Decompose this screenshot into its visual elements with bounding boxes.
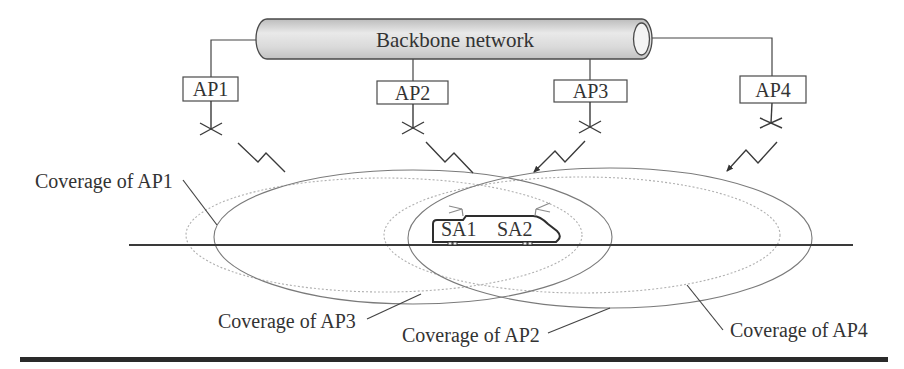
network-diagram: Backbone network AP1 AP2 AP3 AP4 bbox=[0, 0, 904, 369]
access-point-ap2: AP2 bbox=[377, 81, 473, 173]
train: SA1 SA2 bbox=[433, 203, 560, 245]
coverage-label-text: Coverage of AP2 bbox=[402, 324, 540, 347]
train-antenna-left-icon bbox=[449, 206, 463, 216]
backbone-label: Backbone network bbox=[376, 28, 535, 52]
access-point-ap1: AP1 bbox=[183, 77, 285, 172]
ap-label: AP1 bbox=[193, 78, 229, 100]
train-antenna-sa2-label: SA2 bbox=[497, 218, 533, 240]
wireless-signal-arrow-icon bbox=[534, 141, 585, 172]
ap-label: AP2 bbox=[395, 82, 431, 104]
wireless-signal-icon bbox=[238, 143, 285, 172]
backbone-tube-opening bbox=[634, 23, 650, 55]
leader-line bbox=[367, 294, 421, 319]
coverage-label-text: Coverage of AP4 bbox=[730, 319, 868, 342]
link-ap4 bbox=[651, 38, 772, 76]
access-point-ap4: AP4 bbox=[727, 76, 806, 171]
wireless-signal-icon bbox=[426, 142, 473, 173]
coverage-label-text: Coverage of AP1 bbox=[35, 170, 173, 193]
ap-label: AP4 bbox=[755, 79, 791, 101]
coverage-label-text: Coverage of AP3 bbox=[218, 310, 356, 333]
coverage-label-ap1: Coverage of AP1 bbox=[35, 170, 217, 225]
coverage-label-ap4: Coverage of AP4 bbox=[687, 285, 868, 342]
wireless-signal-arrow-icon bbox=[727, 142, 777, 171]
ap-label: AP3 bbox=[573, 80, 609, 102]
leader-line bbox=[548, 308, 610, 333]
link-ap1 bbox=[211, 40, 257, 77]
train-antenna-right-icon bbox=[535, 203, 550, 216]
leader-line bbox=[183, 180, 217, 225]
leader-line bbox=[687, 285, 723, 330]
access-point-ap3: AP3 bbox=[534, 80, 627, 172]
coverage-label-ap3: Coverage of AP3 bbox=[218, 294, 421, 333]
train-antenna-sa1-label: SA1 bbox=[441, 218, 477, 240]
antenna-stem bbox=[771, 103, 772, 123]
backbone-network: Backbone network bbox=[256, 19, 652, 59]
bottom-rule bbox=[20, 357, 888, 362]
coverage-label-ap2: Coverage of AP2 bbox=[402, 308, 610, 347]
